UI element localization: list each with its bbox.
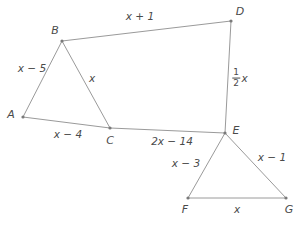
vertex-label-e: E xyxy=(233,125,240,136)
fraction-variable: x xyxy=(242,73,248,84)
label-DE: 12x xyxy=(232,68,247,89)
segment-AC xyxy=(23,117,110,128)
segments-group xyxy=(23,21,286,198)
label-EG: x − 1 xyxy=(258,152,286,163)
geometry-diagram: ABCDEFGx − 5xx − 4x + 112x2x − 14x − 3x … xyxy=(0,0,299,226)
label-BC: x xyxy=(89,73,95,84)
vertex-point-a xyxy=(21,115,24,118)
segment-EG xyxy=(225,133,286,198)
vertex-point-c xyxy=(108,126,111,129)
vertex-point-b xyxy=(60,39,63,42)
fraction-half: 12x xyxy=(232,68,247,89)
vertices-group xyxy=(21,19,287,199)
vertex-label-a: A xyxy=(7,109,15,120)
vertex-point-d xyxy=(229,19,232,22)
vertex-label-b: B xyxy=(51,25,59,36)
segment-BD xyxy=(62,21,231,41)
segment-AB xyxy=(23,41,62,117)
vertex-label-d: D xyxy=(236,6,244,17)
label-AB: x − 5 xyxy=(18,63,46,74)
vertex-label-f: F xyxy=(182,204,188,215)
vertex-point-g xyxy=(284,196,287,199)
vertex-label-c: C xyxy=(106,135,114,146)
fraction-denominator: 2 xyxy=(232,79,240,88)
label-AC: x − 4 xyxy=(54,129,82,140)
label-EF: x − 3 xyxy=(172,158,200,169)
segment-BC xyxy=(62,41,110,128)
label-FG: x xyxy=(234,204,240,215)
vertex-point-e xyxy=(223,131,226,134)
label-BD: x + 1 xyxy=(126,11,154,22)
vertex-point-f xyxy=(186,196,189,199)
segment-CE xyxy=(110,128,225,133)
segment-DE xyxy=(225,21,231,133)
fraction-numerator: 1 xyxy=(232,68,240,77)
vertex-label-g: G xyxy=(285,204,294,215)
label-CE: 2x − 14 xyxy=(151,136,193,147)
diagram-canvas xyxy=(0,0,299,226)
